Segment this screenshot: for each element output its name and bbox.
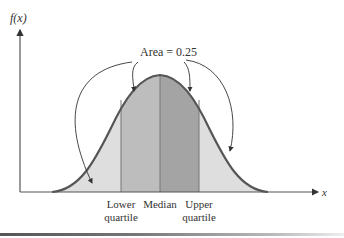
quartile-diagram: f(x) x Area = 0.25 Lower quartile Median… xyxy=(0,0,344,238)
x-axis-label: x xyxy=(321,186,327,198)
upper-quartile-label-2: quartile xyxy=(182,211,216,223)
area-annotation: Area = 0.25 xyxy=(140,45,197,59)
region-upper-tail xyxy=(199,60,279,193)
arrow-upper-middle xyxy=(184,62,190,91)
y-axis-label: f(x) xyxy=(10,11,27,25)
median-label: Median xyxy=(143,198,177,210)
lower-quartile-label-2: quartile xyxy=(104,211,138,223)
region-upper-middle xyxy=(160,60,199,193)
region-lower-tail xyxy=(40,60,121,193)
lower-quartile-label-1: Lower xyxy=(107,198,136,210)
upper-quartile-label-1: Upper xyxy=(185,198,213,210)
region-lower-middle xyxy=(121,60,160,193)
bottom-rule xyxy=(0,233,344,236)
